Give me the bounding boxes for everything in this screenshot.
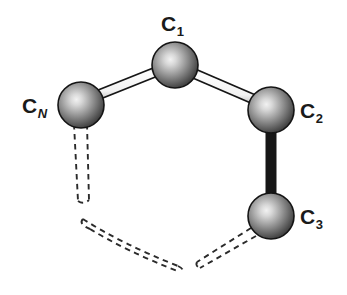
bond-chain-arc: [82, 219, 183, 272]
atom-c1: [152, 42, 198, 88]
atom-cn: [58, 82, 104, 128]
atom-label-cn: CN: [22, 95, 47, 116]
atom-label-cn-element: C: [22, 94, 37, 117]
atom-c3: [248, 193, 294, 239]
atom-c2: [248, 87, 294, 133]
atom-label-c2-element: C: [300, 99, 315, 122]
atom-label-c1-element: C: [161, 12, 176, 35]
molecule-canvas: [0, 0, 347, 295]
bond-cn-open: [74, 124, 89, 203]
atom-label-c2-index: 2: [316, 111, 323, 126]
atom-label-c3-index: 3: [316, 217, 323, 232]
atom-label-c2: C2: [300, 100, 322, 121]
atom-label-cn-index: N: [38, 106, 47, 121]
atom-label-c1-index: 1: [177, 24, 184, 39]
atom-label-c1: C1: [161, 13, 183, 34]
atom-label-c3-element: C: [300, 205, 315, 228]
atom-label-c3: C3: [300, 206, 322, 227]
bond-c3-open: [196, 228, 256, 268]
molecular-diagram-figure: C1 CN C2 C3: [0, 0, 347, 295]
